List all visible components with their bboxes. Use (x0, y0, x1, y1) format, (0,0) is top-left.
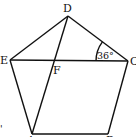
segment-cb (108, 61, 128, 134)
angle-label-c: 36° (97, 50, 114, 61)
pentagon-diagram: D E C F A B 36° ' (0, 0, 136, 137)
vertex-label-d: D (63, 2, 72, 15)
vertex-label-f: F (53, 64, 61, 77)
vertex-label-e: E (0, 54, 8, 67)
vertex-label-a: A (26, 134, 36, 137)
segment-de (10, 16, 68, 60)
vertex-label-c: C (130, 55, 136, 68)
segment-da (32, 16, 68, 134)
stray-mark: ' (0, 123, 3, 134)
vertex-label-b: B (106, 134, 114, 137)
segment-ea (10, 60, 32, 134)
